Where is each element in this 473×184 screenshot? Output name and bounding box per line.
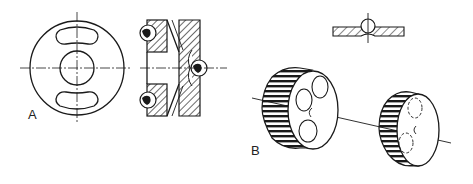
ball-bottom-left — [140, 92, 156, 108]
left-gear-hole-1 — [296, 89, 312, 111]
left-toothed-gear — [262, 68, 338, 149]
figure-a-cross-section — [140, 20, 227, 116]
left-gear-hole-2 — [312, 76, 328, 98]
right-gear-face — [397, 94, 439, 166]
right-toothed-gear — [379, 92, 439, 166]
figure-b-ball-plate-section — [333, 13, 404, 43]
ball-top-left — [140, 25, 156, 41]
left-gear-hole-3 — [299, 120, 317, 142]
figure-label-b: B — [251, 143, 260, 158]
technical-drawing — [0, 0, 473, 184]
figure-label-a: A — [28, 107, 37, 122]
